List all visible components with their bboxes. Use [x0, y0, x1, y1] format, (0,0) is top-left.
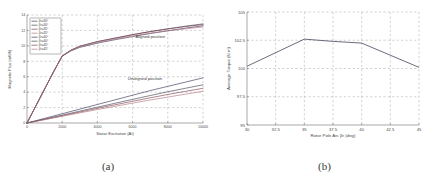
y-tick-label: 8 — [23, 60, 25, 64]
panel-b: 3032.53537.54042.5459597.5100102.5105Rot… — [216, 0, 433, 174]
x-tick-label: 2000 — [58, 125, 66, 129]
y-tick-label: 2 — [23, 106, 25, 110]
panel-a: 020004000600080001000002468101214Stator … — [0, 0, 216, 174]
x-tick-label: 37.5 — [329, 127, 338, 132]
series-line — [27, 91, 203, 123]
y-tick-label: 100 — [238, 66, 246, 71]
series-line — [27, 85, 203, 123]
x-tick-label: 32.5 — [272, 127, 281, 132]
y-tick-label: 10 — [21, 44, 25, 48]
figure-container: 020004000600080001000002468101214Stator … — [0, 0, 433, 174]
y-tick-label: 95 — [240, 123, 245, 128]
y-tick-label: 102.5 — [235, 38, 246, 43]
chart-a-plot: 020004000600080001000002468101214Stator … — [0, 0, 216, 150]
y-axis-title: Average Torque (N.m) — [226, 46, 231, 90]
y-tick-label: 4 — [23, 90, 25, 94]
x-tick-label: 45 — [417, 127, 422, 132]
panel-b-caption: (b) — [216, 160, 433, 172]
legend-item-label: βr=45° — [39, 47, 49, 51]
x-tick-label: 30 — [245, 127, 250, 132]
x-axis-title: Rotor Pole Arc βr (deg) — [311, 133, 357, 138]
x-tick-label: 10000 — [198, 125, 208, 129]
x-tick-label: 8000 — [164, 125, 172, 129]
annotation-label: Unaligned position — [128, 76, 163, 81]
x-tick-label: 0 — [26, 125, 28, 129]
series-line — [27, 78, 203, 123]
y-tick-label: 0 — [23, 121, 25, 125]
x-tick-label: 6000 — [129, 125, 137, 129]
x-tick-label: 35 — [302, 127, 307, 132]
y-tick-label: 6 — [23, 75, 25, 79]
y-tick-label: 97.5 — [237, 94, 246, 99]
y-tick-label: 14 — [21, 13, 25, 17]
panel-a-caption: (a) — [0, 160, 216, 172]
chart-b-plot: 3032.53537.54042.5459597.5100102.5105Rot… — [216, 0, 433, 150]
annotation-label: Aligned position — [135, 34, 165, 39]
y-tick-label: 12 — [21, 29, 25, 33]
y-tick-label: 105 — [238, 10, 246, 15]
x-tick-label: 42.5 — [386, 127, 395, 132]
x-tick-label: 40 — [359, 127, 364, 132]
x-axis-title: Stator Excitation (At) — [96, 131, 134, 136]
y-axis-title: Magnetic Flux (mWb) — [7, 49, 12, 89]
x-tick-label: 4000 — [93, 125, 101, 129]
